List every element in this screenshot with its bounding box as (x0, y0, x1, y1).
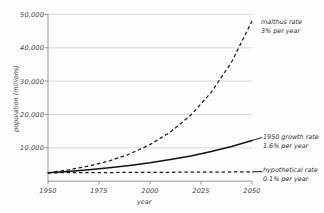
y-tick-label-50000: 50,000 (0, 11, 44, 19)
x-tick-label-1975: 1975 (79, 187, 119, 195)
annotation-malthus-rate: malthus rate 3% per year (261, 18, 302, 35)
series-hypothetical-rate (48, 172, 252, 173)
population-growth-chart: 50,000 40,000 30,000 20,000 10,000 1950 … (0, 0, 324, 213)
y-tick-marks (45, 14, 49, 147)
x-tick-label-2050: 2050 (232, 187, 272, 195)
y-tick-label-40000: 40,000 (0, 44, 44, 52)
annotation-malthus-rate-line1: malthus rate (261, 18, 302, 26)
y-axis-title: population (millions) (12, 65, 20, 132)
x-tick-label-1950: 1950 (28, 187, 68, 195)
annotation-malthus-rate-line2: 3% per year (261, 27, 302, 36)
annotation-1950-growth-rate-line2: 1.6% per year (263, 142, 319, 151)
annotation-hypothetical-rate-line2: 0.1% per year (263, 175, 318, 184)
series-1950-growth-rate (48, 141, 252, 173)
x-tick-label-2025: 2025 (181, 187, 221, 195)
annotation-leader-lines (252, 138, 262, 172)
annotation-hypothetical-rate-line1: hypothetical rate (263, 166, 318, 174)
y-tick-label-20000: 20,000 (0, 111, 44, 119)
y-tick-label-10000: 10,000 (0, 144, 44, 152)
annotation-1950-growth-rate-line1: 1950 growth rate (263, 133, 319, 141)
y-tick-label-30000: 30,000 (0, 78, 44, 86)
leader-1950-growth (252, 138, 262, 141)
series-malthus-rate (48, 21, 252, 173)
annotation-hypothetical-rate: hypothetical rate 0.1% per year (263, 166, 318, 183)
x-tick-label-2000: 2000 (130, 187, 170, 195)
annotation-1950-growth-rate: 1950 growth rate 1.6% per year (263, 133, 319, 150)
x-tick-marks (48, 181, 252, 184)
x-axis-title: year (137, 198, 152, 206)
gridlines (48, 14, 252, 147)
